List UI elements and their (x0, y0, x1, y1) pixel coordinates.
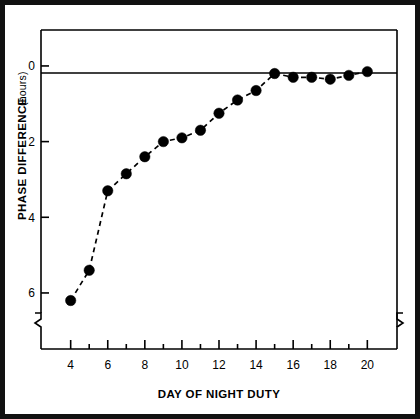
y-tick-label: 2 (28, 135, 35, 149)
data-point-marker (251, 85, 261, 95)
x-axis-ticks (71, 340, 368, 349)
data-point-marker (177, 133, 187, 143)
series-markers (65, 66, 372, 305)
data-point-marker (269, 68, 279, 78)
data-point-marker (344, 70, 354, 80)
data-point-marker (307, 72, 317, 82)
phase-difference-line-chart: 0246 468101214161820 (5, 5, 420, 419)
right-axis-break-icon (397, 313, 403, 333)
data-point-marker (362, 66, 372, 76)
y-tick-label: 4 (28, 211, 35, 225)
data-point-marker (325, 74, 335, 84)
x-tick-label: 16 (286, 358, 300, 372)
left-axis-break-icon (35, 313, 41, 333)
x-tick-label: 12 (212, 358, 226, 372)
y-tick-label: 0 (28, 59, 35, 73)
data-series-group (65, 66, 372, 305)
y-axis-ticks (41, 66, 49, 293)
x-tick-label: 18 (324, 358, 338, 372)
y-axis-title-group: PHASE DIFFERENCE (hours) (16, 71, 28, 220)
data-point-marker (103, 186, 113, 196)
y-axis-tick-labels: 0246 (28, 59, 35, 300)
data-point-marker (232, 95, 242, 105)
x-axis-tick-labels: 468101214161820 (67, 358, 374, 372)
chart-canvas: 0246 468101214161820 (5, 5, 420, 419)
data-point-marker (140, 152, 150, 162)
data-point-marker (195, 125, 205, 135)
y-axis-title: PHASE DIFFERENCE (16, 97, 28, 220)
x-tick-label: 4 (67, 358, 74, 372)
x-tick-label: 14 (249, 358, 263, 372)
x-tick-label: 20 (361, 358, 375, 372)
data-point-marker (121, 169, 131, 179)
data-point-marker (65, 295, 75, 305)
data-point-marker (214, 108, 224, 118)
y-tick-label: 6 (28, 286, 35, 300)
data-point-marker (84, 265, 94, 275)
x-tick-label: 6 (104, 358, 111, 372)
figure-panel: 0246 468101214161820 (0, 0, 420, 419)
data-point-marker (158, 136, 168, 146)
x-axis-title: DAY OF NIGHT DUTY (158, 388, 280, 400)
series-dashed-line (71, 72, 368, 301)
y-axis-units-label: (hours) (16, 71, 28, 106)
data-point-marker (288, 72, 298, 82)
x-tick-label: 10 (175, 358, 189, 372)
x-tick-label: 8 (141, 358, 148, 372)
